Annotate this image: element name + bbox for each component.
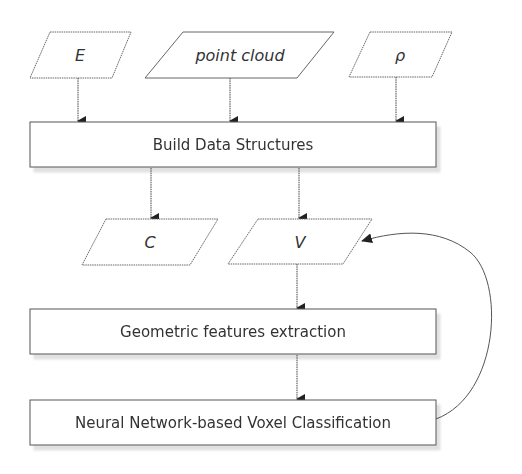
input-rho-node: ρ <box>349 32 452 77</box>
output-c-label: C <box>144 233 156 252</box>
input-rho-label: ρ <box>395 46 405 65</box>
neural-classification-label: Neural Network-based Voxel Classificatio… <box>75 414 391 432</box>
geometric-features-label: Geometric features extraction <box>120 323 346 341</box>
geometric-features-node: Geometric features extraction <box>30 309 436 354</box>
input-point-cloud-label: point cloud <box>194 46 285 65</box>
input-e-label: E <box>75 46 86 65</box>
input-e-node: E <box>30 32 131 78</box>
neural-classification-node: Neural Network-based Voxel Classificatio… <box>30 400 436 445</box>
flowchart-diagram: E point cloud ρ Build Data Structures C … <box>0 0 522 474</box>
input-point-cloud-node: point cloud <box>145 32 334 78</box>
output-v-label: V <box>295 233 307 252</box>
build-data-structures-label: Build Data Structures <box>153 136 314 154</box>
output-c-node: C <box>82 219 218 265</box>
output-v-node: V <box>228 219 372 264</box>
build-data-structures-node: Build Data Structures <box>30 122 436 167</box>
